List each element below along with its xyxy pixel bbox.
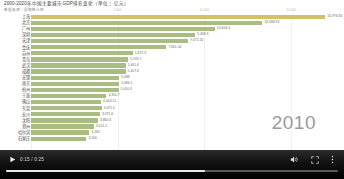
progress-bar[interactable]: [6, 170, 338, 172]
bar-value-label: 5,872.3: [135, 51, 146, 56]
bar-category-label: 武汉: [0, 63, 30, 68]
bar-category-label: 东莞: [0, 106, 30, 111]
bar-value-label: 3,200: [88, 136, 97, 141]
bar-category-label: 天津: [0, 38, 30, 43]
bar-category-label: 石家庄: [0, 136, 30, 141]
bar-category-label: 苏州: [0, 51, 30, 56]
year-annotation: 2010: [272, 112, 316, 134]
bar-row: 上海16,976.84: [0, 14, 344, 19]
chart-canvas: 2000-2020年中国主要城市GDP排名变化（单位：亿元） 数据来源：国家统计…: [0, 0, 344, 150]
bar: [31, 15, 325, 19]
bar-value-label: 13,338.63: [264, 20, 279, 25]
bar-category-label: 佛山: [0, 99, 30, 104]
bar-row: 北京13,338.63: [0, 20, 344, 25]
bar: [31, 112, 100, 116]
bar-value-label: 5,593.7: [130, 57, 141, 62]
bar-value-label: 16,976.84: [327, 14, 342, 19]
time-display: 0:15 / 0:25: [20, 153, 44, 166]
bar: [31, 82, 119, 86]
bar-category-label: 长沙: [0, 112, 30, 117]
bar-row: 天津9,072.32: [0, 38, 344, 43]
player-control-bar[interactable]: 0:15 / 0:25: [0, 150, 344, 179]
bar-category-label: 无锡: [0, 75, 30, 80]
bar-value-label: 5,050.3: [121, 87, 132, 92]
bar-row: 东莞4,075.5: [0, 106, 344, 111]
bar-row: 佛山4,044.51: [0, 99, 344, 104]
play-icon[interactable]: [7, 153, 17, 166]
bar: [31, 51, 133, 55]
bar-row: 武汉5,461.6: [0, 63, 344, 68]
bar-value-label: 4,350.7: [108, 93, 119, 98]
bar-value-label: 3,621.2: [96, 124, 107, 129]
bar: [31, 45, 166, 49]
bar-category-label: 深圳: [0, 32, 30, 37]
bar-row: 苏州5,872.3: [0, 51, 344, 56]
chart-title: 2000-2020年中国主要城市GDP排名变化（单位：亿元）: [4, 0, 129, 6]
bar: [31, 39, 188, 43]
bar-value-label: 9,468.3: [197, 32, 208, 37]
bar-category-label: 北京: [0, 20, 30, 25]
more-options-icon[interactable]: [328, 153, 337, 166]
bar-row: 成都5,457.6: [0, 69, 344, 74]
bar-category-label: 上海: [0, 14, 30, 19]
video-player[interactable]: 2000-2020年中国主要城市GDP排名变化（单位：亿元） 数据来源：国家统计…: [0, 0, 344, 179]
bar-row: 重庆7,801.04: [0, 45, 344, 50]
bar-category-label: 沈阳: [0, 118, 30, 123]
bar-category-label: 广州: [0, 26, 30, 31]
bar-category-label: 成都: [0, 69, 30, 74]
fullscreen-icon[interactable]: [309, 153, 320, 166]
bar: [31, 88, 119, 92]
bar-value-label: 5,461.6: [128, 63, 139, 68]
bar-value-label: 3,975.6: [102, 112, 113, 117]
bar: [31, 33, 195, 37]
bar-value-label: 3,860.6: [100, 118, 111, 123]
bar-category-label: 郑州: [0, 124, 30, 129]
bar: [31, 76, 119, 80]
bar-category-label: 重庆: [0, 45, 30, 50]
bar-value-label: 9,072.32: [190, 38, 203, 43]
bar: [31, 63, 126, 67]
bar-row: 深圳9,468.3: [0, 32, 344, 37]
progress-fill: [6, 170, 205, 172]
x-axis-tick-label: 15,000: [286, 8, 296, 12]
x-axis-tick-label: 5,000: [114, 8, 122, 12]
x-axis-tick-label: 0: [30, 8, 32, 12]
bar: [31, 69, 126, 73]
bar-category-label: 杭州: [0, 87, 30, 92]
bar-value-label: 7,801.04: [168, 45, 181, 50]
bar-row: 青岛5,593.7: [0, 57, 344, 62]
bar-row: 无锡5,088: [0, 75, 344, 80]
bar-value-label: 5,457.6: [128, 69, 139, 74]
bar-category-label: 青岛: [0, 57, 30, 62]
volume-icon[interactable]: [289, 153, 300, 166]
bar: [31, 124, 94, 128]
bar: [31, 137, 86, 141]
bar-value-label: 10,604.6: [217, 26, 230, 31]
bar: [31, 130, 89, 134]
bar: [31, 106, 102, 110]
bar-value-label: 4,075.5: [104, 106, 115, 111]
bar: [31, 100, 101, 104]
bar-row: 南京5,086.1: [0, 81, 344, 86]
bar-value-label: 3,365: [91, 130, 100, 135]
x-axis-tick-label: 10,000: [199, 8, 209, 12]
bar-value-label: 5,086.1: [121, 81, 132, 86]
bar-row: 杭州5,050.3: [0, 87, 344, 92]
bar-category-label: 南京: [0, 81, 30, 86]
bar-row: 宁波4,350.7: [0, 93, 344, 98]
bar: [31, 57, 128, 61]
bar: [31, 118, 98, 122]
bar-row: 石家庄3,200: [0, 136, 344, 141]
bar-category-label: 哈尔滨: [0, 130, 30, 135]
bar-row: 广州10,604.6: [0, 26, 344, 31]
bar: [31, 27, 215, 31]
bar-category-label: 宁波: [0, 93, 30, 98]
bar: [31, 94, 106, 98]
bar-value-label: 4,044.51: [103, 99, 116, 104]
bar: [31, 21, 262, 25]
bar-value-label: 5,088: [121, 75, 130, 80]
